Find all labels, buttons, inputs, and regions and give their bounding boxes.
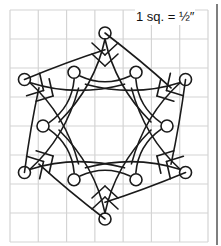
tine (40, 73, 44, 90)
inner-arc (136, 129, 161, 172)
tine (92, 54, 105, 66)
tine (105, 186, 118, 198)
inner-circle (37, 120, 49, 132)
tine (166, 162, 170, 179)
snowflake-grid-svg (0, 0, 221, 246)
inner-circle (130, 174, 142, 186)
inner-arc (49, 129, 74, 172)
inner-arc (136, 79, 161, 122)
tine (166, 73, 170, 90)
inner-circle (68, 174, 80, 186)
inner-arc (80, 170, 130, 176)
inner-circle (161, 120, 173, 132)
tine (92, 186, 105, 198)
pattern-diagram: 1 sq. = ½″ (0, 0, 221, 246)
inner-circle (130, 66, 142, 78)
inner-circle (68, 66, 80, 78)
scale-label: 1 sq. = ½″ (135, 9, 195, 25)
tine (40, 162, 44, 179)
inner-arc (49, 79, 74, 122)
tine (105, 54, 118, 66)
inner-arc (80, 76, 130, 82)
